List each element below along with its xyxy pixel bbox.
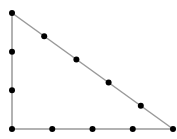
point-marker: [9, 87, 15, 93]
point-marker: [106, 80, 112, 86]
point-marker: [170, 126, 176, 132]
point-marker: [41, 33, 47, 39]
triangle-edges: [12, 13, 173, 129]
point-marker: [138, 103, 144, 109]
point-marker: [49, 126, 55, 132]
point-marker: [9, 49, 15, 55]
point-marker: [9, 126, 15, 132]
point-marker: [130, 126, 136, 132]
point-marker: [73, 56, 79, 62]
point-marker: [9, 10, 15, 16]
triangle-diagram: [0, 0, 177, 139]
hypotenuse: [12, 13, 173, 129]
point-marker: [90, 126, 96, 132]
